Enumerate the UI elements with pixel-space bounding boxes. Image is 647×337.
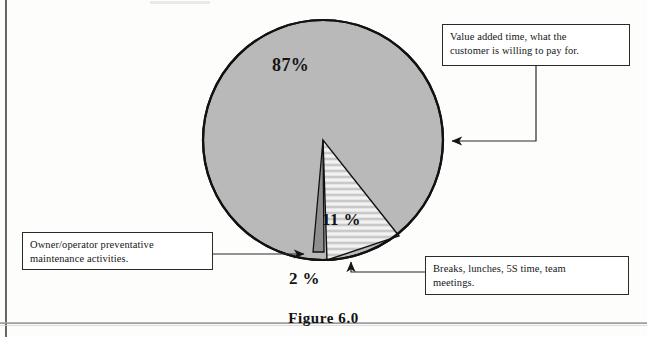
callout-owner-operator: Owner/operator preventative maintenance … [22, 232, 213, 270]
leader-line-value-added [452, 66, 536, 141]
callout-owner-operator-line2: maintenance activities. [30, 252, 205, 266]
callout-owner-operator-line1: Owner/operator preventative [30, 238, 205, 252]
callout-value-added-line1: Value added time, what the [450, 30, 622, 44]
callout-value-added-line2: customer is willing to pay for. [450, 44, 622, 58]
callout-value-added-time: Value added time, what the customer is w… [442, 24, 630, 66]
figure-caption: Figure 6.0 [0, 310, 647, 327]
callout-breaks: Breaks, lunches, 5S time, team meetings. [425, 256, 629, 295]
pie-label-87: 87% [272, 55, 309, 76]
callout-breaks-line1: Breaks, lunches, 5S time, team [433, 262, 621, 276]
leader-line-breaks [351, 262, 425, 272]
pie-label-2: 2 % [289, 269, 320, 289]
callout-breaks-line2: meetings. [433, 276, 621, 290]
pie-label-11: 11 % [322, 210, 361, 230]
figure-page: 87% 11 % 2 % Value added time, what the … [0, 0, 647, 337]
